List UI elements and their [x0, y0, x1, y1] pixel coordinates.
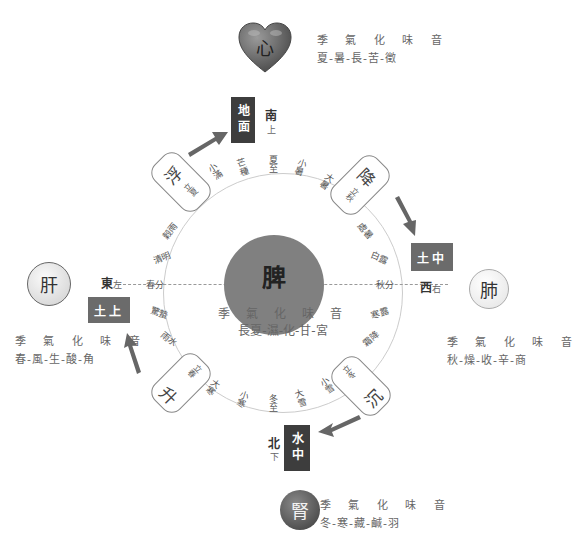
liver-info-header: 季 氣 化 味 音: [15, 333, 147, 351]
pill-descend-label: 降: [353, 162, 383, 192]
solar-term: 夏至: [268, 155, 278, 173]
spleen-info: 季 氣 化 味 音 長夏-濕-化-甘-宮: [213, 306, 353, 340]
lung-info-header: 季 氣 化 味 音: [447, 334, 577, 352]
north-direction: 北: [268, 437, 280, 451]
spleen-info-values: 長夏-濕-化-甘-宮: [213, 323, 353, 340]
lung-label: 肺: [480, 276, 498, 302]
west-box: 土中: [411, 243, 453, 271]
liver-info: 季 氣 化 味 音 春-風-生-酸-角: [15, 333, 147, 369]
east-box: 土上: [88, 297, 130, 323]
liver-info-values: 春-風-生-酸-角: [15, 351, 147, 369]
kidney-info-values: 冬-寒-藏-鹹-羽: [320, 515, 452, 533]
kidney-info-header: 季 氣 化 味 音: [320, 497, 452, 515]
liver-label: 肝: [40, 271, 58, 297]
lung-info-values: 秋-燥-收-辛-商: [447, 352, 577, 370]
kidney-label: 腎: [291, 497, 309, 523]
east-label: 東左: [101, 274, 122, 291]
kidney-organ: 腎: [280, 490, 320, 530]
pill-sink-term: 立冬: [339, 363, 358, 382]
north-label: 北 下: [267, 438, 281, 463]
pill-rise-term: 立春: [185, 361, 204, 380]
lung-organ: 肺: [469, 269, 509, 309]
north-sub: 下: [270, 452, 279, 462]
east-direction: 東: [101, 277, 113, 291]
solar-term: 秋分: [376, 280, 394, 290]
west-label: 西右: [420, 278, 441, 295]
east-sub: 左: [113, 280, 122, 290]
pill-descend-term: 立秋: [342, 184, 361, 203]
north-box: 水中: [284, 425, 310, 471]
west-sub: 右: [432, 284, 441, 294]
solar-term: 冬至: [268, 394, 278, 412]
kidney-info: 季 氣 化 味 音 冬-寒-藏-鹹-羽: [320, 497, 452, 533]
pill-rise-label: 升: [154, 379, 184, 409]
west-direction: 西: [420, 281, 432, 295]
pill-float-term: 立夏: [180, 181, 199, 200]
solar-term: 春分: [146, 280, 164, 290]
spleen-label: 脾: [224, 258, 324, 293]
liver-organ: 肝: [27, 262, 71, 306]
spleen-info-header: 季 氣 化 味 音: [213, 306, 353, 323]
lung-info: 季 氣 化 味 音 秋-燥-收-辛-商: [447, 334, 577, 370]
